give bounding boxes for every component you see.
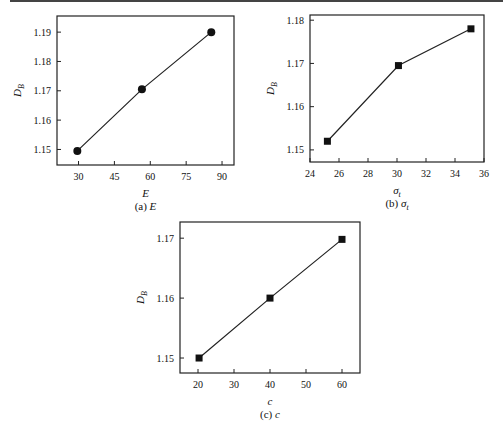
- y-tick-label: 1.18: [34, 56, 52, 67]
- chart-panel-b: 242628303234361.151.161.171.18DBσt(b) σt: [264, 15, 489, 212]
- chart-panel-c: 20304050601.151.161.17DBc(c) c: [134, 222, 360, 421]
- panel-caption: (b) σt: [385, 197, 409, 212]
- x-tick-label: 30: [74, 171, 84, 182]
- data-point-square: [395, 62, 402, 69]
- data-point-square: [196, 355, 203, 362]
- data-point-square: [324, 138, 331, 145]
- y-tick-label: 1.18: [287, 15, 305, 26]
- x-tick-label: 40: [265, 379, 275, 390]
- data-point-square: [339, 236, 346, 243]
- data-point-circle: [138, 85, 146, 93]
- x-tick-label: 20: [193, 379, 203, 390]
- figure-panels: 30456075901.151.161.171.181.19DBE(a) E24…: [0, 0, 503, 433]
- y-axis-label: DB: [11, 84, 26, 98]
- chart-panel-a: 30456075901.151.161.171.181.19DBE(a) E: [11, 16, 234, 213]
- y-tick-label: 1.16: [34, 115, 52, 126]
- panel-caption: (c) c: [260, 408, 280, 421]
- y-tick-label: 1.15: [34, 144, 52, 155]
- x-tick-label: 75: [181, 171, 191, 182]
- plot-frame: [310, 15, 484, 162]
- data-line: [327, 29, 471, 141]
- x-tick-label: 26: [334, 168, 344, 179]
- x-axis-label: c: [268, 395, 273, 407]
- data-point-circle: [207, 28, 215, 36]
- x-tick-label: 60: [337, 379, 347, 390]
- y-tick-label: 1.17: [34, 85, 52, 96]
- data-point-circle: [73, 147, 81, 155]
- x-tick-label: 32: [421, 168, 431, 179]
- x-axis-label: E: [141, 187, 149, 199]
- x-tick-label: 30: [392, 168, 402, 179]
- y-axis-label: DB: [134, 291, 149, 305]
- x-tick-label: 28: [363, 168, 373, 179]
- y-tick-label: 1.17: [157, 233, 175, 244]
- x-tick-label: 45: [109, 171, 119, 182]
- y-axis-label: DB: [264, 82, 279, 96]
- panel-caption: (a) E: [135, 200, 157, 213]
- y-tick-label: 1.15: [287, 144, 305, 155]
- x-tick-label: 60: [145, 171, 155, 182]
- data-point-square: [267, 295, 274, 302]
- x-tick-label: 30: [229, 379, 239, 390]
- x-tick-label: 36: [479, 168, 489, 179]
- x-tick-label: 50: [301, 379, 311, 390]
- x-tick-label: 34: [450, 168, 460, 179]
- y-tick-label: 1.16: [157, 293, 175, 304]
- data-point-square: [467, 25, 474, 32]
- y-tick-label: 1.19: [34, 27, 52, 38]
- x-tick-label: 90: [217, 171, 227, 182]
- y-tick-label: 1.16: [287, 101, 305, 112]
- y-tick-label: 1.15: [157, 353, 175, 364]
- y-tick-label: 1.17: [287, 58, 305, 69]
- x-tick-label: 24: [305, 168, 315, 179]
